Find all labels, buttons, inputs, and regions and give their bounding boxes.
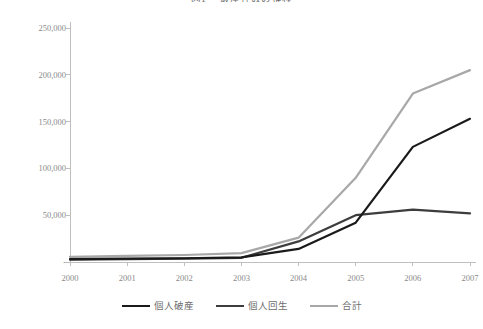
y-axis-tick-label: 50,000 [8, 210, 66, 220]
chart-legend: 個人破産個人回生合計 [0, 300, 483, 312]
legend-item-label: 個人回生 [248, 300, 288, 312]
axis-lines [66, 22, 476, 266]
y-axis-tick-label: 100,000 [8, 163, 66, 173]
x-axis-tick-label: 2002 [176, 273, 193, 283]
series-line [70, 119, 470, 259]
legend-item[interactable]: 個人回生 [216, 300, 288, 312]
y-axis-tick-label: - [8, 257, 66, 267]
x-axis-tick-label: 2005 [347, 273, 364, 283]
x-axis-tick-labels: 20002001200220032004200520062007 [0, 273, 483, 287]
series-lines [70, 70, 470, 260]
legend-swatch-line-icon [122, 305, 150, 307]
x-axis-tick-label: 2006 [404, 273, 421, 283]
legend-swatch-line-icon [310, 305, 338, 307]
x-axis-tick-label: 2001 [119, 273, 136, 283]
x-axis-tick-label: 2004 [290, 273, 307, 283]
x-axis-tick-label: 2000 [62, 273, 79, 283]
legend-swatch-line-icon [216, 305, 244, 307]
x-axis-tick-label: 2003 [233, 273, 250, 283]
y-axis-tick-label: 150,000 [8, 117, 66, 127]
chart-figure: 図1破産件数の推移 -50,000100,000150,000200,00025… [0, 0, 483, 329]
legend-item[interactable]: 合計 [310, 300, 362, 312]
legend-item[interactable]: 個人破産 [122, 300, 194, 312]
plot-area: -50,000100,000150,000200,000250,000 2000… [0, 0, 483, 329]
y-axis-tick-label: 200,000 [8, 70, 66, 80]
y-axis-tick-label: 250,000 [8, 23, 66, 33]
x-axis-tick-label: 2007 [462, 273, 479, 283]
series-line [70, 70, 470, 257]
legend-item-label: 合計 [342, 300, 362, 312]
legend-item-label: 個人破産 [154, 300, 194, 312]
